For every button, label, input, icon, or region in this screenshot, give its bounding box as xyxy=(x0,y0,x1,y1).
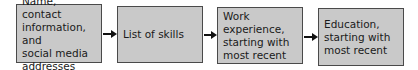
arrow-work-to-education xyxy=(304,36,313,38)
node-skills: List of skills xyxy=(117,6,203,63)
node-skills-label: List of skills xyxy=(123,28,184,41)
node-contact-info-label: Name, contact information, and social me… xyxy=(22,0,96,70)
arrow-skills-to-work xyxy=(204,34,212,36)
arrow-contact-to-skills xyxy=(103,33,112,35)
node-contact-info: Name, contact information, and social me… xyxy=(16,4,102,63)
node-work-experience-label: Work experience, starting with most rece… xyxy=(223,10,297,62)
node-work-experience: Work experience, starting with most rece… xyxy=(217,7,303,64)
node-education-label: Education, starting with most recent xyxy=(324,18,390,57)
node-education: Education, starting with most recent xyxy=(318,8,404,66)
